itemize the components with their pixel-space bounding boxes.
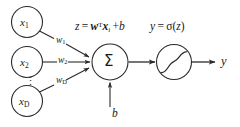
activation-formula: y = σ(z)	[150, 21, 185, 33]
pre-activation-formula: z = wTxi +b	[75, 21, 125, 34]
edge-x1-stub	[40, 31, 55, 39]
weight-label-w2: w2	[58, 56, 68, 66]
weight-label-wD: wD	[56, 76, 67, 86]
neuron-diagram: x1 x2 xD ⋮ w1 w2 wD Σ z = wTxi +b y = σ(…	[0, 0, 240, 127]
input-node-x1-label: x1	[20, 17, 29, 29]
input-node-xD-label: xD	[19, 96, 29, 108]
output-label: y	[221, 55, 227, 68]
input-node-x2-label: x2	[20, 57, 29, 69]
bias-label: b	[112, 108, 118, 120]
edge-wD-to-sum	[66, 68, 89, 80]
input-nodes-ellipsis: ⋮	[25, 76, 36, 87]
edge-w1-to-sum	[66, 44, 89, 57]
edge-xD-stub	[40, 85, 55, 92]
weight-label-w1: w1	[56, 36, 66, 46]
summation-node-label: Σ	[104, 54, 113, 69]
